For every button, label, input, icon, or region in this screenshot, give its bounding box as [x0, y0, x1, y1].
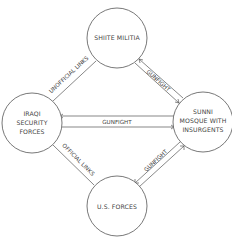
edge-gunfight-us-sunni: GUNFIGHT [135, 142, 184, 187]
edge-official-links: OFFICIAL LINKS [53, 142, 96, 185]
node-label: U.S. FORCES [97, 203, 137, 210]
edge-label-gunfight: GUNFIGHT [145, 68, 171, 93]
node-label: SHIITE MILITIA [94, 34, 140, 41]
node-label-line-3: INSURGENTS [182, 126, 223, 133]
node-shiite-militia: SHIITE MILITIA [87, 8, 147, 68]
node-sunni-mosque: SUNNI MOSQUE WITH INSURGENTS [173, 92, 232, 152]
node-label-line-3: FORCES [19, 128, 44, 135]
node-label-line-1: SUNNI [193, 108, 213, 115]
conflict-diagram: UNOFFICIAL LINKS GUNFIGHT GUNFIGHT OFFIC… [0, 0, 232, 237]
node-us-forces: U.S. FORCES [87, 176, 147, 236]
node-label-line-1: IRAQI [23, 110, 40, 117]
edge-gunfight-shiite-sunni: GUNFIGHT [135, 59, 183, 103]
edge-label-official-links: OFFICIAL LINKS [61, 142, 96, 177]
edge-gunfight-iraqi-sunni: GUNFIGHT [60, 114, 174, 129]
edge-label-gunfight: GUNFIGHT [143, 148, 169, 173]
edge-label-gunfight: GUNFIGHT [102, 119, 132, 125]
edge-label-unofficial-links: UNOFFICIAL LINKS [48, 55, 90, 95]
node-label-line-2: SECURITY [16, 119, 47, 126]
edge-unofficial-links: UNOFFICIAL LINKS [48, 55, 96, 101]
node-label-line-2: MOSQUE WITH [180, 117, 227, 124]
node-iraqi-security-forces: IRAQI SECURITY FORCES [2, 93, 62, 153]
